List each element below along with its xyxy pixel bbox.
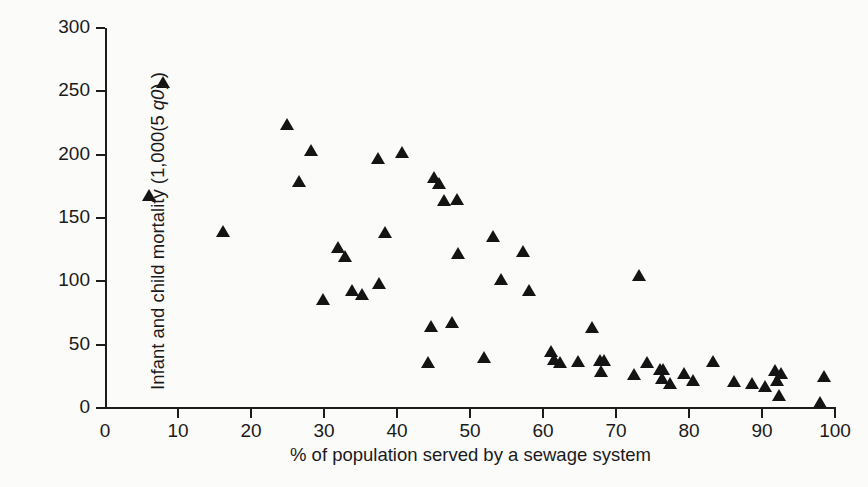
data-point [450,193,464,205]
y-tick-label-250: 250 [30,79,90,101]
data-point [421,356,435,368]
data-point [372,277,386,289]
x-tick-label-50: 50 [440,420,500,442]
x-tick-label-60: 60 [513,420,573,442]
data-point [424,320,438,332]
data-point [663,377,677,389]
x-tick-70 [615,409,617,418]
x-tick-label-90: 90 [732,420,792,442]
y-axis-title-symbol: q0 [147,90,168,111]
data-point [585,321,599,333]
y-tick-label-300: 300 [30,16,90,38]
data-point [292,175,306,187]
y-tick-200 [96,154,105,156]
y-tick-label-50: 50 [30,333,90,355]
data-point [727,375,741,387]
data-point [355,288,369,300]
y-tick-50 [96,344,105,346]
x-tick-label-30: 30 [294,420,354,442]
x-tick-100 [834,409,836,418]
y-axis-title-prefix: Infant and child mortality (1,000(5 [147,110,168,390]
x-axis-title: % of population served by a sewage syste… [105,444,836,466]
x-tick-label-100: 100 [805,420,865,442]
y-tick-label-200: 200 [30,143,90,165]
x-tick-10 [177,409,179,418]
data-point [445,316,459,328]
x-tick-90 [761,409,763,418]
data-point [686,374,700,386]
y-axis-title: Infant and child mortality (1,000(5 q0) … [147,36,169,426]
x-tick-label-80: 80 [659,420,719,442]
data-point [304,144,318,156]
y-tick-150 [96,217,105,219]
data-point [371,152,385,164]
data-point [627,368,641,380]
x-tick-label-20: 20 [221,420,281,442]
data-point [338,250,352,262]
data-point [522,284,536,296]
y-tick-label-100: 100 [30,269,90,291]
data-point [774,367,788,379]
data-point [378,226,392,238]
x-tick-80 [688,409,690,418]
data-point [745,377,759,389]
x-tick-60 [542,409,544,418]
data-point [597,354,611,366]
y-axis-title-suffix: ) ) [147,72,168,89]
y-tick-label-150: 150 [30,206,90,228]
data-point [706,355,720,367]
data-point [216,225,230,237]
data-point [553,356,567,368]
data-point-layer [105,28,835,408]
data-point [486,230,500,242]
x-tick-40 [396,409,398,418]
x-tick-label-70: 70 [586,420,646,442]
x-tick-50 [469,409,471,418]
y-tick-300 [96,27,105,29]
data-point [571,355,585,367]
data-point [594,365,608,377]
x-tick-20 [250,409,252,418]
data-point [395,146,409,158]
x-tick-label-0: 0 [75,420,135,442]
x-tick-label-40: 40 [367,420,427,442]
data-point [477,351,491,363]
data-point [316,293,330,305]
y-tick-label-0: 0 [30,396,90,418]
data-point [813,396,827,408]
y-tick-250 [96,90,105,92]
y-tick-0 [96,407,105,409]
data-point [772,389,786,401]
data-point [516,245,530,257]
data-point [451,247,465,259]
figure-scatter-plot: 050100150200250300 010203040506070809010… [0,0,868,487]
data-point [817,370,831,382]
x-tick-30 [323,409,325,418]
data-point [432,177,446,189]
data-point [280,118,294,130]
plot-area: Infant and child mortality (1,000(5 q0) … [105,28,835,408]
data-point [632,269,646,281]
data-point [494,273,508,285]
y-tick-100 [96,280,105,282]
data-point [656,363,670,375]
